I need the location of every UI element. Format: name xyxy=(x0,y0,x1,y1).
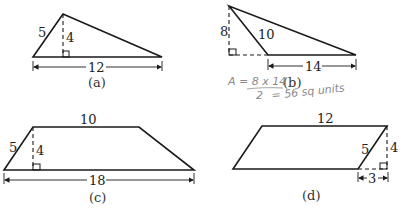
geometry-figures: 5 4 12 (a) 8 10 14 (b) A = 8 x 14 2 = 56… xyxy=(0,0,401,208)
caption-c: (c) xyxy=(89,190,106,205)
height-label-b: 8 xyxy=(220,24,228,39)
side-label-c: 5 xyxy=(9,140,17,155)
figure-b: 8 10 14 (b) A = 8 x 14 2 = 56 sq units xyxy=(220,6,356,102)
side-label-d: 5 xyxy=(361,142,369,157)
side-label-b: 10 xyxy=(258,27,275,42)
right-angle-icon xyxy=(380,163,387,169)
handwriting-line2: 2 xyxy=(256,89,263,102)
top-label-d: 12 xyxy=(317,111,334,126)
caption-d: (d) xyxy=(302,188,320,203)
right-angle-icon xyxy=(63,51,69,57)
base-label-c: 18 xyxy=(89,173,106,188)
side-label-a: 5 xyxy=(38,25,46,40)
caption-a: (a) xyxy=(88,75,106,90)
height-label-c: 4 xyxy=(36,143,44,158)
figure-d: 12 5 4 3 (d) xyxy=(233,111,398,203)
right-angle-icon xyxy=(33,164,40,170)
height-label-a: 4 xyxy=(66,30,74,45)
height-label-d: 4 xyxy=(390,140,398,155)
base-label-b: 14 xyxy=(305,59,322,74)
offset-label-d: 3 xyxy=(368,171,376,186)
triangle-a xyxy=(33,14,162,57)
top-label-c: 10 xyxy=(80,112,97,127)
right-angle-icon xyxy=(229,49,236,55)
triangle-b xyxy=(229,6,356,55)
figure-c: 10 5 4 18 (c) xyxy=(4,112,194,205)
handwriting-line1: A = 8 x 14 xyxy=(227,75,286,88)
base-label-a: 12 xyxy=(88,60,105,75)
figure-a: 5 4 12 (a) xyxy=(33,14,162,90)
